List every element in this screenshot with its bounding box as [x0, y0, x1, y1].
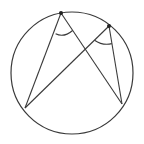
inscribed-angles-diagram	[0, 0, 144, 144]
vertex-dot-top-right	[107, 24, 111, 28]
vertex-dot-top-left	[59, 11, 63, 15]
angle-arc-top-left	[56, 31, 73, 36]
diagram-canvas	[0, 0, 144, 144]
angle-arc-top-right	[95, 40, 112, 44]
chord-top-right-to-bottom-left	[25, 26, 109, 108]
chord-top-left-to-bottom-left	[25, 13, 61, 108]
chord-top-left-to-bottom-right	[61, 13, 122, 104]
chord-top-right-to-bottom-right	[109, 26, 122, 104]
